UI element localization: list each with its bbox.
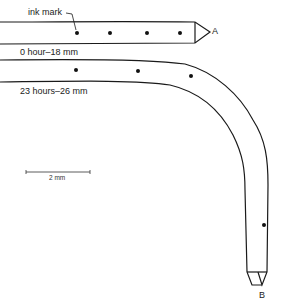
tip-a-label: A <box>212 27 218 36</box>
top-root-ink-marks <box>75 31 182 35</box>
ink-mark-label: ink mark <box>28 8 62 17</box>
tip-b-label: B <box>259 291 265 300</box>
root-growth-diagram <box>0 0 285 302</box>
top-root-caption: 0 hour–18 mm <box>20 48 78 57</box>
bottom-root-ink-marks <box>74 68 266 227</box>
scale-bar-label: 2 mm <box>49 175 65 182</box>
bottom-root-caption: 23 hours–26 mm <box>20 87 88 96</box>
